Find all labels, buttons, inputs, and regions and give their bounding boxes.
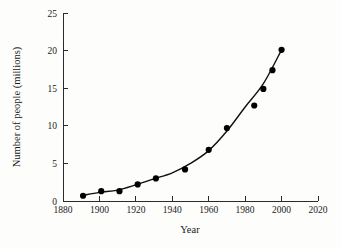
y-tick-label-25: 25 <box>48 9 58 19</box>
scatter-plot: 25 20 15 10 5 0 1880 1900 1920 1940 1960… <box>0 0 341 248</box>
data-point <box>224 125 230 131</box>
y-tick-label-5: 5 <box>52 159 57 169</box>
y-tick-label-15: 15 <box>48 84 58 94</box>
data-point <box>260 86 266 92</box>
data-point <box>206 147 212 153</box>
y-axis-tick-labels: 25 20 15 10 5 0 <box>48 9 58 207</box>
y-tick-label-10: 10 <box>48 121 58 131</box>
axis-lines <box>63 13 318 201</box>
data-point <box>153 175 159 181</box>
data-point <box>251 102 257 108</box>
data-point <box>116 188 122 194</box>
data-point <box>80 193 86 199</box>
data-point <box>278 47 284 53</box>
data-points <box>80 47 285 199</box>
x-axis-tick-labels: 1880 1900 1920 1940 1960 1980 2000 2020 <box>54 205 328 215</box>
x-tick-label-2020: 2020 <box>309 205 328 215</box>
x-tick-label-1980: 1980 <box>236 205 255 215</box>
x-axis-ticks <box>63 196 318 201</box>
y-axis-title: Number of people (millions) <box>11 46 23 167</box>
data-point <box>269 67 275 73</box>
chart-figure: 25 20 15 10 5 0 1880 1900 1920 1940 1960… <box>0 0 341 248</box>
x-tick-label-2000: 2000 <box>272 205 291 215</box>
data-point <box>182 166 188 172</box>
y-axis-ticks <box>63 13 68 201</box>
x-tick-label-1920: 1920 <box>126 205 145 215</box>
x-tick-label-1940: 1940 <box>163 205 182 215</box>
x-tick-label-1900: 1900 <box>90 205 109 215</box>
x-axis-title: Year <box>180 224 200 235</box>
y-tick-label-20: 20 <box>48 46 58 56</box>
data-point <box>98 188 104 194</box>
fit-curve <box>83 50 282 196</box>
x-tick-label-1880: 1880 <box>54 205 73 215</box>
x-tick-label-1960: 1960 <box>199 205 218 215</box>
data-point <box>135 181 141 187</box>
